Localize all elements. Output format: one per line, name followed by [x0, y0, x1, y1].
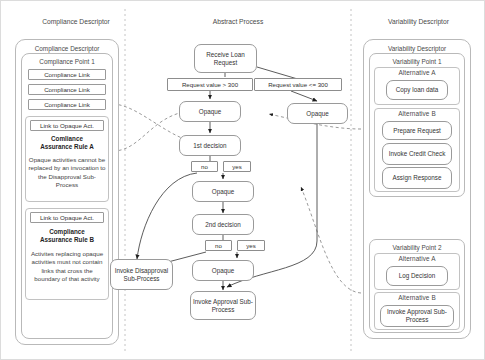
vp1-alt-b-activity-prepare-request[interactable]: Prepare Request	[382, 121, 452, 140]
rule-b-link-to-opaque-act[interactable]: Link to Opaque Act.	[30, 212, 104, 223]
node-opaque-left[interactable]: Opaque	[179, 101, 241, 122]
branch-label-d2-no: no	[205, 240, 232, 251]
rule-a-name-line1: Comliance	[25, 135, 109, 143]
vp2-alt-a-activity-log-decision[interactable]: Log Decision	[386, 266, 448, 286]
variability-point-2-title: Variability Point 2	[370, 244, 464, 251]
node-opaque-right[interactable]: Opaque	[287, 103, 348, 124]
rule-a-description: Opaque activities cannot be replaced by …	[28, 156, 106, 189]
vp1-alt-a-activity-copy-loan-data[interactable]: Copy loan data	[386, 80, 448, 100]
node-1st-decision[interactable]: 1st decision	[179, 135, 241, 156]
rule-b-name-line1: Compliance	[25, 228, 109, 236]
vp1-alternative-a-title: Alternative A	[374, 69, 460, 76]
variability-descriptor-title: Variability Descriptor	[364, 45, 470, 52]
column-header-compliance: Compliance Descriptor	[21, 18, 131, 25]
node-opaque-low[interactable]: Opaque	[192, 260, 254, 281]
node-invoke-disapproval-sub-process[interactable]: Invoke Disapproval Sub-Process	[110, 259, 173, 290]
compliance-link-3[interactable]: Compliance Link	[28, 99, 106, 110]
compliance-link-2[interactable]: Compliance Link	[28, 84, 106, 95]
rule-b-description: Activites replacing opaque activities mu…	[28, 250, 106, 283]
rule-a-link-to-opaque-act[interactable]: Link to Opaque Act.	[30, 120, 104, 131]
variability-point-1-title: Variability Point 1	[370, 58, 464, 65]
branch-label-d1-yes: yes	[223, 161, 251, 172]
vp2-alt-b-activity-invoke-approval-sub-process[interactable]: Invoke Approval Sub-Process	[380, 305, 454, 327]
branch-label-d2-yes: yes	[237, 240, 265, 251]
node-opaque-mid[interactable]: Opaque	[192, 181, 254, 202]
condition-request-value-lte: Request value <= 300	[254, 78, 342, 91]
rule-a-name-line2: Assurance Rule A	[25, 143, 109, 151]
node-invoke-approval-sub-process[interactable]: Invoke Approval Sub-Process	[190, 291, 256, 320]
diagram-canvas: Compliance Descriptor Abstract Process V…	[0, 0, 485, 360]
compliance-link-1[interactable]: Compliance Link	[28, 69, 106, 80]
vp1-alt-b-activity-assign-response[interactable]: Assign Response	[382, 167, 452, 189]
node-receive-loan-request[interactable]: Receive Loan Request	[194, 44, 257, 73]
condition-request-value-gt: Request value > 300	[167, 78, 253, 91]
compliance-point-title: Compliance Point 1	[22, 58, 112, 65]
vp1-alt-b-activity-invoke-credit-check[interactable]: Invoke Credit Check	[382, 143, 452, 165]
compliance-descriptor-title: Compliance Descriptor	[16, 45, 118, 52]
vp1-alternative-b-title: Alternative B	[374, 110, 460, 117]
branch-label-d1-no: no	[191, 161, 218, 172]
column-header-abstract: Abstract Process	[183, 18, 293, 25]
rule-b-name-line2: Assurance Rule B	[25, 236, 109, 244]
column-header-variability: Variability Descriptor	[361, 18, 476, 25]
vp2-alternative-a-title: Alternative A	[374, 255, 460, 262]
vp2-alternative-b-title: Alternative B	[374, 294, 460, 301]
node-2nd-decision[interactable]: 2nd decision	[192, 214, 254, 235]
